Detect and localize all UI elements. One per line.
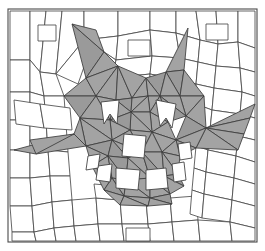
background-square-tile bbox=[128, 40, 150, 56]
background-tile bbox=[150, 11, 176, 33]
low-poly-cat-illustration bbox=[0, 0, 265, 251]
background-tile bbox=[10, 11, 30, 60]
background-tile bbox=[10, 150, 30, 178]
background-tile bbox=[216, 42, 240, 68]
background-tile bbox=[172, 220, 200, 241]
background-tile bbox=[214, 66, 242, 92]
nose-shape bbox=[116, 168, 140, 190]
background-tile bbox=[10, 206, 34, 232]
background-square-tile bbox=[206, 24, 228, 40]
background-tile bbox=[12, 232, 36, 241]
background-tile bbox=[10, 178, 32, 206]
left-whiskers-shape bbox=[178, 142, 192, 160]
background-tile bbox=[52, 200, 74, 228]
background-tile bbox=[74, 224, 100, 241]
background-tile bbox=[30, 150, 50, 178]
right-fang-shape bbox=[86, 154, 100, 170]
background-tile bbox=[194, 146, 208, 172]
background-tile bbox=[10, 60, 30, 92]
background-tile bbox=[54, 226, 76, 241]
background-tile bbox=[212, 88, 242, 114]
background-tile bbox=[192, 168, 206, 194]
background-tile bbox=[190, 190, 204, 218]
background-tile bbox=[198, 40, 218, 66]
background-tile bbox=[48, 150, 70, 176]
background-square-tile bbox=[126, 228, 150, 241]
mouth-shape bbox=[146, 168, 168, 190]
mosaic-artboard bbox=[0, 0, 265, 251]
background-tile bbox=[40, 104, 72, 130]
background-tile bbox=[148, 222, 174, 241]
background-tile bbox=[50, 176, 72, 202]
background-tile bbox=[30, 176, 52, 206]
background-tile bbox=[72, 198, 98, 226]
left-fang-shape bbox=[172, 162, 186, 182]
background-tile bbox=[14, 100, 44, 128]
background-tile bbox=[32, 202, 54, 232]
background-tile bbox=[198, 220, 232, 241]
left-eye-shape bbox=[122, 134, 146, 158]
background-tile bbox=[98, 224, 124, 241]
background-tile bbox=[196, 62, 216, 88]
background-square-tile bbox=[38, 25, 56, 41]
